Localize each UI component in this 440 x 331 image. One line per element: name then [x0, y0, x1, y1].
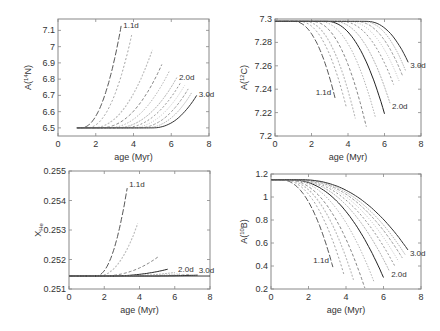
x-tick-label: 2	[306, 292, 311, 302]
y-axis-label-rest: C)	[239, 65, 249, 75]
curve-label-1.1d: 1.1d	[129, 180, 145, 189]
x-tick-label: 8	[418, 139, 423, 149]
y-axis-label-rest: B)	[239, 219, 249, 228]
y-tick-label: 6.7	[42, 90, 55, 100]
curve-n14-1.1d	[77, 26, 121, 128]
y-tick-label: 7.26	[254, 61, 272, 71]
figure: 024686.56.66.76.86.977.1age (Myr)A(14N)1…	[0, 0, 440, 331]
y-tick-label: 0.251	[43, 284, 66, 294]
curve-label-3.0d: 3.0d	[199, 90, 215, 99]
y-axis-label-sub: He	[38, 222, 44, 230]
y-tick-label: 6.6	[42, 107, 55, 117]
curve-xhe-1.2d	[69, 224, 138, 277]
x-tick-label: 4	[131, 139, 136, 149]
x-tick-label: 0	[272, 139, 277, 149]
curve-c12-3.0d	[275, 21, 408, 62]
y-tick-label: 7.1	[42, 25, 55, 35]
x-axis-label: age (Myr)	[329, 152, 368, 162]
y-tick-label: 1.2	[255, 169, 268, 179]
curve-c12-1.8d	[275, 21, 385, 114]
x-tick-label: 2	[102, 292, 107, 302]
x-tick-label: 6	[172, 292, 177, 302]
y-tick-label: 0.253	[43, 225, 66, 235]
curve-b10-2.2d	[271, 180, 395, 266]
curve-c12-2.4d	[275, 21, 399, 81]
curve-b10-1.6d	[271, 180, 374, 282]
curve-label-2.0d: 2.0d	[392, 102, 408, 111]
x-tick-label: 6	[169, 139, 174, 149]
x-tick-label: 2	[93, 139, 98, 149]
y-axis-label: A(12C)	[239, 65, 249, 90]
x-tick-label: 4	[345, 139, 350, 149]
curve-c12-1.2d	[275, 21, 346, 107]
curve-b10-1.1d	[271, 180, 333, 267]
x-tick-label: 0	[66, 292, 71, 302]
curve-label-3.0d: 3.0d	[410, 249, 426, 258]
y-axis-label-rest: N)	[23, 65, 33, 75]
plot-frame-c12	[275, 19, 421, 136]
y-tick-label: 6.8	[42, 74, 55, 84]
x-axis-label: age (Myr)	[114, 152, 153, 162]
curve-label-3.0d: 3.0d	[199, 266, 215, 275]
y-tick-label: 0.255	[43, 166, 66, 176]
curve-n14-1.2d	[77, 35, 132, 128]
y-tick-label: 0.6	[255, 238, 268, 248]
y-tick-label: 7	[50, 42, 55, 52]
y-tick-label: 0.8	[255, 215, 268, 225]
y-tick-label: 7.3	[259, 14, 272, 24]
x-tick-label: 8	[418, 292, 423, 302]
x-tick-label: 8	[207, 292, 212, 302]
y-tick-label: 1	[263, 192, 268, 202]
x-tick-label: 6	[381, 292, 386, 302]
curve-label-2.0d: 2.0d	[178, 265, 194, 274]
y-tick-label: 7.24	[254, 84, 272, 94]
curve-xhe-1.4d	[69, 269, 168, 276]
y-axis-label: A(10B)	[239, 219, 249, 244]
curve-label-1.1d: 1.1d	[316, 88, 332, 97]
curve-label-2.0d: 2.0d	[179, 73, 195, 82]
x-tick-label: 2	[309, 139, 314, 149]
y-axis-label-base: A(	[23, 81, 33, 90]
y-tick-label: 0.252	[43, 255, 66, 265]
y-tick-label: 0.2	[255, 284, 268, 294]
curve-n14-1.4d	[77, 65, 162, 128]
x-tick-label: 4	[137, 292, 142, 302]
y-tick-label: 0.254	[43, 196, 66, 206]
curve-xhe-1.3d	[69, 256, 159, 276]
x-tick-label: 8	[206, 139, 211, 149]
y-axis-label: A(14N)	[23, 65, 33, 90]
curve-b10-2.8d	[271, 180, 405, 255]
y-axis-label: XHe	[33, 222, 44, 236]
curve-n14-2.8d	[77, 92, 192, 128]
y-tick-label: 7.22	[254, 108, 272, 118]
curve-label-1.1d: 1.1d	[313, 256, 329, 265]
curve-label-3.0d: 3.0d	[410, 61, 426, 70]
x-tick-label: 4	[343, 292, 348, 302]
y-tick-label: 7.28	[254, 37, 272, 47]
x-tick-label: 6	[382, 139, 387, 149]
x-tick-label: 0	[55, 139, 60, 149]
y-tick-label: 6.5	[42, 123, 55, 133]
y-axis-label-base: A(	[239, 235, 249, 244]
curve-label-2.0d: 2.0d	[391, 270, 407, 279]
y-axis-label-base: A(	[239, 81, 249, 90]
curve-n14-1.3d	[77, 50, 152, 128]
y-tick-label: 7.2	[259, 131, 272, 141]
x-tick-label: 0	[268, 292, 273, 302]
y-tick-label: 0.4	[255, 261, 268, 271]
y-tick-label: 6.9	[42, 58, 55, 68]
x-axis-label: age (Myr)	[120, 305, 159, 315]
curve-label-1.1d: 1.1d	[123, 21, 139, 30]
x-axis-label: age (Myr)	[327, 305, 366, 315]
